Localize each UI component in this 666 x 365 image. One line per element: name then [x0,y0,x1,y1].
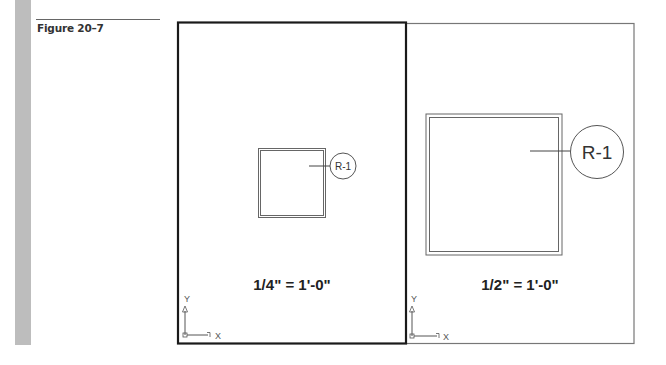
left-room-tag: R-1 [335,161,352,172]
left-scale-label: 1/4" = 1'-0" [253,276,330,293]
left-viewport-border[interactable] [178,23,406,344]
right-ucs-y-label: Y [411,294,417,304]
right-viewport-border[interactable] [406,24,634,344]
right-viewport[interactable]: R-1 1/2" = 1'-0" Y X [406,24,634,344]
right-room-tag: R-1 [582,142,613,163]
left-ucs-y-label: Y [184,294,190,304]
right-scale-label: 1/2" = 1'-0" [481,276,558,293]
right-ucs-x-label: X [443,332,449,342]
right-room-outer-wall [426,114,562,255]
right-ucs-icon: Y X [410,294,450,342]
layout-drawing: R-1 1/2" = 1'-0" Y X R-1 1/4" = 1'-0" [0,0,666,365]
left-ucs-x-label: X [215,331,221,341]
left-room-outer-wall [259,149,326,218]
right-room-inner-wall [430,118,559,252]
left-viewport[interactable]: R-1 1/4" = 1'-0" Y X [178,23,406,344]
left-ucs-icon: Y X [183,294,222,341]
left-room-inner-wall [261,151,324,216]
